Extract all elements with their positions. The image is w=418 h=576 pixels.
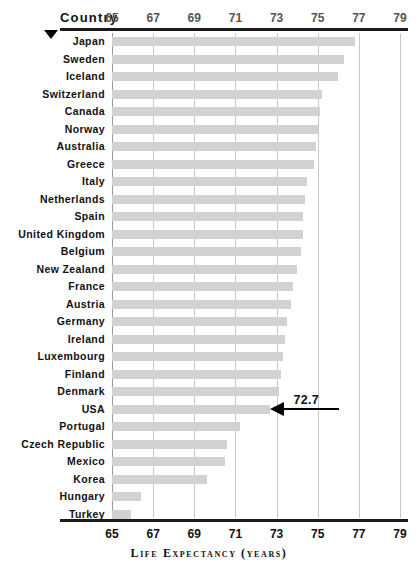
tick-label-bottom-75: 75	[311, 527, 324, 541]
bar-japan[interactable]	[112, 37, 355, 46]
country-label-greece: Greece	[67, 158, 105, 170]
bar-row[interactable]: Spain	[112, 208, 400, 226]
bar-row[interactable]: Sweden	[112, 51, 400, 69]
life-expectancy-chart: Country 6567697173757779 JapanSwedenIcel…	[0, 0, 418, 576]
bar-austria[interactable]	[112, 300, 291, 309]
tick-label-top-65: 65	[105, 11, 118, 25]
country-label-ireland: Ireland	[68, 333, 105, 345]
bar-norway[interactable]	[112, 125, 318, 134]
country-label-mexico: Mexico	[67, 455, 105, 467]
bar-row[interactable]: Denmark	[112, 383, 400, 401]
country-label-hungary: Hungary	[60, 490, 105, 502]
country-label-luxembourg: Luxembourg	[37, 350, 105, 362]
bar-row[interactable]: United Kingdom	[112, 226, 400, 244]
country-label-new-zealand: New Zealand	[36, 263, 105, 275]
bar-czech-republic[interactable]	[112, 440, 227, 449]
bar-germany[interactable]	[112, 317, 287, 326]
country-label-canada: Canada	[65, 105, 105, 117]
bar-row[interactable]: Czech Republic	[112, 436, 400, 454]
tick-label-top-75: 75	[311, 11, 324, 25]
gridline-79	[400, 33, 401, 518]
bar-iceland[interactable]	[112, 72, 338, 81]
bar-row[interactable]: Luxembourg	[112, 348, 400, 366]
bar-mexico[interactable]	[112, 457, 225, 466]
bar-row[interactable]: Netherlands	[112, 191, 400, 209]
country-label-united-kingdom: United Kingdom	[18, 228, 105, 240]
tick-label-bottom-77: 77	[352, 527, 365, 541]
bar-belgium[interactable]	[112, 247, 301, 256]
tick-label-bottom-73: 73	[270, 527, 283, 541]
tick-label-bottom-69: 69	[188, 527, 201, 541]
tick-label-bottom-67: 67	[146, 527, 159, 541]
country-label-czech-republic: Czech Republic	[21, 438, 105, 450]
bar-france[interactable]	[112, 282, 293, 291]
x-axis-title: Life Expectancy (years)	[0, 546, 418, 561]
bar-row[interactable]: Hungary	[112, 488, 400, 506]
country-label-korea: Korea	[73, 473, 105, 485]
bar-row[interactable]: Canada	[112, 103, 400, 121]
country-label-netherlands: Netherlands	[40, 193, 105, 205]
top-axis-rule	[60, 28, 408, 31]
country-label-turkey: Turkey	[69, 508, 105, 520]
country-label-switzerland: Switzerland	[42, 88, 105, 100]
bar-row[interactable]: Greece	[112, 156, 400, 174]
bar-luxembourg[interactable]	[112, 352, 283, 361]
bar-row[interactable]: Belgium	[112, 243, 400, 261]
bar-australia[interactable]	[112, 142, 316, 151]
bar-row[interactable]: USA	[112, 401, 400, 419]
bar-row[interactable]: Finland	[112, 366, 400, 384]
country-label-usa: USA	[82, 403, 105, 415]
country-label-finland: Finland	[65, 368, 105, 380]
bar-row[interactable]: Japan	[112, 33, 400, 51]
bar-row[interactable]: New Zealand	[112, 261, 400, 279]
country-label-japan: Japan	[73, 35, 105, 47]
bar-row[interactable]: Norway	[112, 121, 400, 139]
plot-area: JapanSwedenIcelandSwitzerlandCanadaNorwa…	[112, 33, 400, 518]
bar-row[interactable]: Iceland	[112, 68, 400, 86]
country-label-belgium: Belgium	[61, 245, 105, 257]
bar-hungary[interactable]	[112, 492, 141, 501]
bar-row[interactable]: Portugal	[112, 418, 400, 436]
bar-canada[interactable]	[112, 107, 320, 116]
bar-row[interactable]: France	[112, 278, 400, 296]
tick-label-top-71: 71	[229, 11, 242, 25]
bar-row[interactable]: Italy	[112, 173, 400, 191]
country-label-portugal: Portugal	[59, 420, 105, 432]
bar-sweden[interactable]	[112, 55, 344, 64]
country-label-france: France	[68, 280, 105, 292]
bar-ireland[interactable]	[112, 335, 285, 344]
tick-label-bottom-79: 79	[393, 527, 406, 541]
bar-usa[interactable]	[112, 405, 270, 414]
country-label-germany: Germany	[57, 315, 105, 327]
country-label-italy: Italy	[82, 175, 105, 187]
bar-finland[interactable]	[112, 370, 281, 379]
country-label-austria: Austria	[66, 298, 105, 310]
bar-denmark[interactable]	[112, 387, 279, 396]
country-label-iceland: Iceland	[66, 70, 105, 82]
country-label-spain: Spain	[74, 210, 105, 222]
bar-netherlands[interactable]	[112, 195, 305, 204]
bar-row[interactable]: Ireland	[112, 331, 400, 349]
country-label-sweden: Sweden	[63, 53, 105, 65]
bar-row[interactable]: Korea	[112, 471, 400, 489]
country-label-australia: Australia	[56, 140, 105, 152]
bar-united-kingdom[interactable]	[112, 230, 303, 239]
bar-row[interactable]: Austria	[112, 296, 400, 314]
bar-row[interactable]: Mexico	[112, 453, 400, 471]
bar-row[interactable]: Australia	[112, 138, 400, 156]
bar-korea[interactable]	[112, 475, 207, 484]
bar-switzerland[interactable]	[112, 90, 322, 99]
tick-label-top-73: 73	[270, 11, 283, 25]
bar-italy[interactable]	[112, 177, 307, 186]
tick-label-top-69: 69	[188, 11, 201, 25]
bottom-axis-rule	[60, 519, 408, 522]
bar-spain[interactable]	[112, 212, 303, 221]
tick-label-bottom-65: 65	[105, 527, 118, 541]
bar-greece[interactable]	[112, 160, 314, 169]
bar-portugal[interactable]	[112, 422, 240, 431]
bar-row[interactable]: Switzerland	[112, 86, 400, 104]
bar-row[interactable]: Germany	[112, 313, 400, 331]
bar-turkey[interactable]	[112, 510, 131, 519]
tick-label-bottom-71: 71	[229, 527, 242, 541]
bar-new-zealand[interactable]	[112, 265, 297, 274]
